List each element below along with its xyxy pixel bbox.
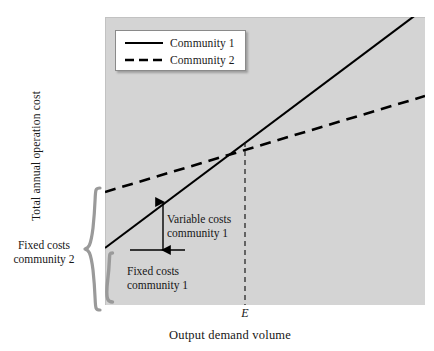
variable-costs-annotation: Variable costs community 1 [167, 212, 231, 240]
legend-label-community-2: Community 2 [170, 54, 235, 66]
legend-item-community-1: Community 1 [125, 35, 235, 51]
legend-item-community-2: Community 2 [125, 52, 235, 68]
figure-container: Variable costs community 1 Fixed costs c… [0, 0, 434, 351]
legend: Community 1 Community 2 [115, 30, 246, 71]
legend-label-community-1: Community 1 [170, 37, 235, 49]
breakeven-tick-label: E [237, 306, 253, 321]
y-axis-title: Total annual operation cost [30, 76, 42, 236]
fixed-costs-community-2-annotation: Fixed costs community 2 [2, 238, 86, 266]
series-line-community-2 [105, 96, 425, 192]
fixed-costs-community-1-line1: Fixed costs [127, 264, 188, 278]
fixed-costs-community-2-line1: Fixed costs [2, 238, 86, 252]
legend-sample-dashed-icon [125, 55, 163, 65]
legend-sample-solid-icon [125, 38, 163, 48]
variable-costs-line1: Variable costs [167, 212, 231, 226]
fixed-costs-community-1-line2: community 1 [127, 278, 188, 292]
fixed-costs-community-1-annotation: Fixed costs community 1 [127, 264, 188, 292]
variable-costs-line2: community 1 [167, 226, 231, 240]
x-axis-title: Output demand volume [150, 328, 310, 343]
fixed-costs-community-2-line2: community 2 [2, 252, 86, 266]
fixed-costs-community-2-brace [85, 188, 100, 310]
